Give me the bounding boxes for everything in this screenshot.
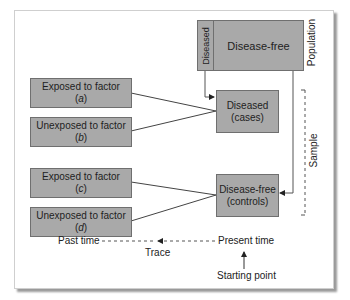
diseased-to-cases-arrow <box>205 71 214 97</box>
population-diseased-label: Diseased <box>201 27 211 65</box>
diseasefree-to-controls-arrow <box>280 71 293 193</box>
exposure-box-d: Unexposed to factor (d) <box>30 207 132 237</box>
exposure-box-code: a <box>78 93 84 104</box>
line-b-to-cases <box>131 111 216 131</box>
cases-line2: (cases) <box>231 112 264 124</box>
line-a-to-cases <box>131 93 216 111</box>
line-d-to-controls <box>131 195 216 221</box>
exposure-box-code: d <box>78 222 84 233</box>
controls-line2: (controls) <box>227 196 269 208</box>
exposure-box-label: Exposed to factor <box>42 171 120 183</box>
exposure-box-b: Unexposed to factor (b) <box>30 117 132 147</box>
controls-box: Disease-free (controls) <box>216 174 279 217</box>
exposure-box-code: b <box>78 132 84 143</box>
present-time-label: Present time <box>218 235 274 246</box>
population-disease-free-label: Disease-free <box>227 40 289 52</box>
population-box: Diseased Disease-free <box>197 20 304 71</box>
controls-line1: Disease-free <box>219 184 276 196</box>
population-diseased-section: Diseased <box>198 21 214 70</box>
sample-label: Sample <box>308 134 319 168</box>
exposure-box-label: Unexposed to factor <box>36 120 126 132</box>
cases-box: Diseased (cases) <box>216 90 279 133</box>
exposure-box-label: Unexposed to factor <box>36 210 126 222</box>
cases-line1: Diseased <box>227 100 269 112</box>
past-time-label: Past time <box>58 235 100 246</box>
exposure-box-c: Exposed to factor (c) <box>30 168 132 198</box>
exposure-box-code: c <box>79 183 84 194</box>
trace-label: Trace <box>145 247 170 258</box>
population-label: Population <box>306 19 317 66</box>
exposure-box-a: Exposed to factor (a) <box>30 78 132 108</box>
starting-point-label: Starting point <box>217 270 276 281</box>
line-c-to-controls <box>131 182 216 195</box>
exposure-box-label: Exposed to factor <box>42 81 120 93</box>
population-disease-free-section: Disease-free <box>214 21 303 70</box>
